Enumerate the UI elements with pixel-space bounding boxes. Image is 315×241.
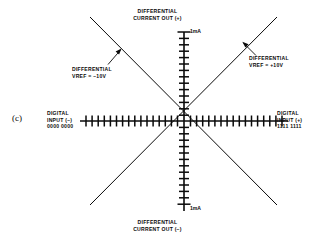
top-axis-caption-line2: CURRENT OUT (+) [0, 15, 315, 22]
vref-negative-annotation-line1: DIFFERENTIAL [72, 66, 134, 73]
vref-positive-annotation-line2: VREF = +10V [249, 62, 313, 69]
x-axis-left-label: DIGITAL INPUT (−) 0000 0000 [47, 110, 105, 130]
bottom-axis-caption: DIFFERENTIAL CURRENT OUT (−) [0, 219, 315, 232]
y-axis-bottom-tick-label: 1mA [190, 205, 201, 211]
figure-letter: (c) [12, 113, 22, 123]
x-axis-left-label-line1: DIGITAL [47, 110, 105, 117]
vref-negative-leader-arrow [108, 49, 122, 65]
figure-panel: (c) DIFFERENTIAL CURRENT OUT (+) 1mA 1mA… [0, 0, 315, 241]
bottom-axis-caption-line2: CURRENT OUT (−) [0, 226, 315, 233]
vref-positive-annotation: DIFFERENTIAL VREF = +10V [249, 55, 313, 68]
x-axis-right-label-value: 1111 1111 [277, 123, 315, 130]
y-axis-top-tick-label: 1mA [190, 28, 201, 34]
x-axis-right-label-line1: DIGITAL [277, 110, 315, 117]
top-axis-caption: DIFFERENTIAL CURRENT OUT (+) [0, 8, 315, 21]
vref-negative-annotation: DIFFERENTIAL VREF = −10V [72, 66, 134, 79]
vref-negative-annotation-line2: VREF = −10V [72, 73, 134, 80]
x-axis-right-label-line2: INPUT (+) [277, 117, 315, 124]
x-axis-left-label-value: 0000 0000 [47, 123, 105, 130]
x-axis-left-label-line2: INPUT (−) [47, 117, 105, 124]
vref-positive-annotation-line1: DIFFERENTIAL [249, 55, 313, 62]
x-axis-right-label: DIGITAL INPUT (+) 1111 1111 [277, 110, 315, 130]
bottom-axis-caption-line1: DIFFERENTIAL [0, 219, 315, 226]
vref-positive-leader-arrow [242, 42, 256, 56]
top-axis-caption-line1: DIFFERENTIAL [0, 8, 315, 15]
